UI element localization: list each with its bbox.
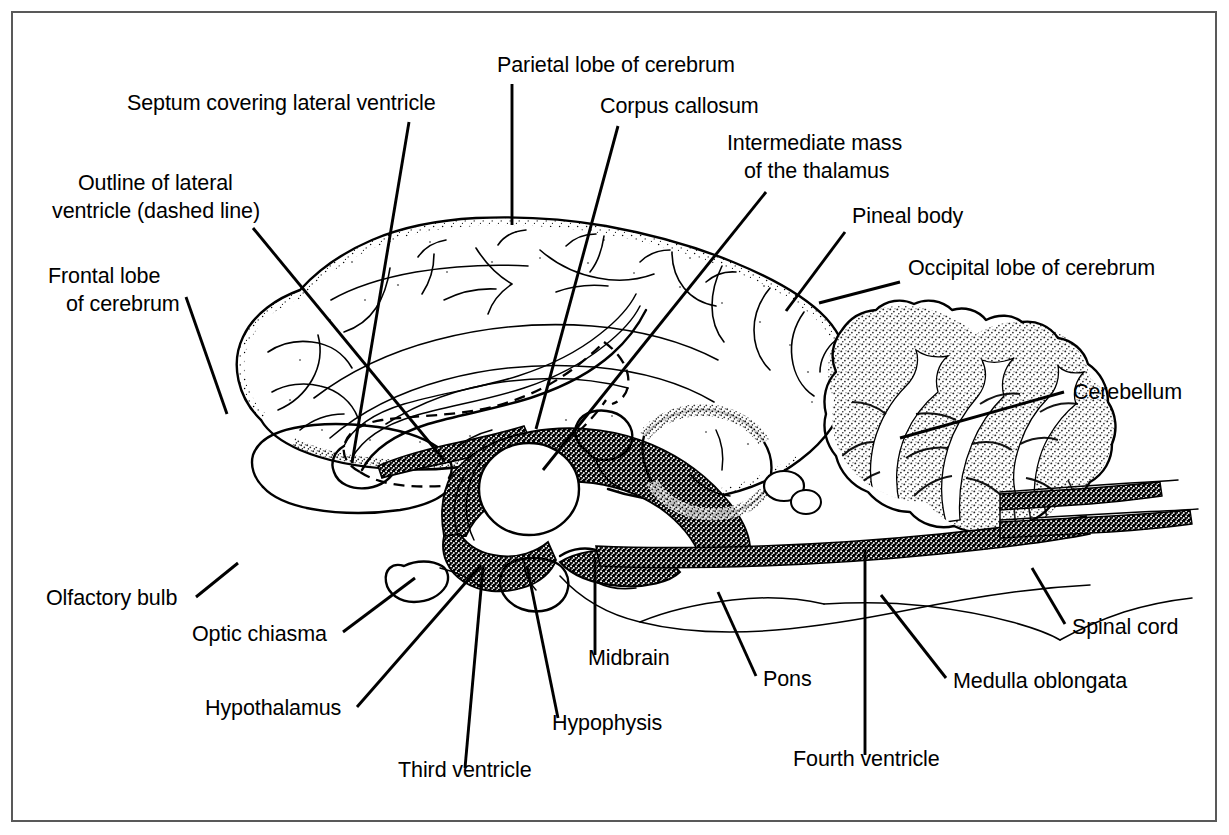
medulla-oblongata-structure <box>824 603 1060 640</box>
label-intermediate-mass-line-2: of the thalamus <box>744 159 890 183</box>
label-medulla-oblongata: Medulla oblongata <box>953 669 1127 693</box>
leader-hypothalamus <box>357 565 481 707</box>
label-cerebellum: Cerebellum <box>1073 380 1182 404</box>
label-outline-of-lateral-ventricle-line-2: ventricle (dashed line) <box>52 199 260 223</box>
label-pineal-body: Pineal body <box>852 204 964 228</box>
leader-spinal-cord <box>1032 568 1065 624</box>
label-hypophysis: Hypophysis <box>552 711 662 735</box>
leader-hypophysis <box>527 566 558 718</box>
label-intermediate-mass-line-1: Intermediate mass <box>727 131 902 155</box>
label-corpus-callosum: Corpus callosum <box>600 94 759 118</box>
olfactory-bulb-structure <box>263 487 450 513</box>
label-optic-chiasma: Optic chiasma <box>192 622 327 646</box>
label-outline-of-lateral-ventricle-line-1: Outline of lateral <box>78 171 233 195</box>
thalamus-intermediate-mass <box>479 443 579 535</box>
label-fourth-ventricle: Fourth ventricle <box>793 747 940 771</box>
label-midbrain: Midbrain <box>588 646 670 670</box>
leader-frontal-lobe <box>186 297 227 414</box>
brain-diagram-figure: Septum covering lateral ventricle Pariet… <box>0 0 1229 835</box>
leader-third-ventricle <box>465 567 483 768</box>
label-frontal-lobe-line-1: Frontal lobe <box>48 264 160 288</box>
leader-pons <box>718 592 756 676</box>
label-pons: Pons <box>763 667 812 691</box>
label-third-ventricle: Third ventricle <box>398 758 532 782</box>
label-occipital-lobe-of-cerebrum: Occipital lobe of cerebrum <box>908 256 1155 280</box>
label-hypothalamus: Hypothalamus <box>205 696 341 720</box>
cerebellum-structure <box>820 296 1130 546</box>
label-parietal-lobe-of-cerebrum: Parietal lobe of cerebrum <box>497 53 735 77</box>
leader-occipital <box>819 282 900 303</box>
pons-ventral-bulge <box>640 598 824 622</box>
label-spinal-cord: Spinal cord <box>1072 615 1178 639</box>
peduncle-nodule-b <box>791 490 821 514</box>
label-frontal-lobe-line-2: of cerebrum <box>66 292 180 316</box>
label-septum-covering-lateral-ventricle: Septum covering lateral ventricle <box>127 91 436 115</box>
leader-olfactory-bulb <box>196 563 238 597</box>
optic-chiasma-structure <box>386 562 448 603</box>
label-olfactory-bulb: Olfactory bulb <box>46 586 177 610</box>
leader-optic-chiasma <box>343 578 415 632</box>
brain-illustration-canvas: Septum covering lateral ventricle Pariet… <box>0 0 1229 835</box>
